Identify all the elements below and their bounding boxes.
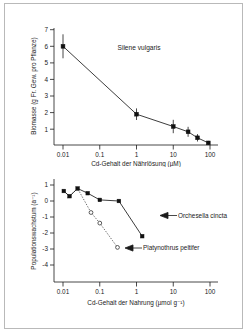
top-x-tick-label: 0.1 xyxy=(95,151,104,158)
orchesella-label: Orchesella cincta xyxy=(178,212,227,219)
bottom-y-tick-label: -1 xyxy=(42,213,48,220)
bottom-y-tick-label: 0 xyxy=(44,197,48,204)
bottom-x-tick-labels: 0.01 0.1 1 10 100 xyxy=(57,288,216,295)
bottom-y-tick-labels: 1 0 -1 -2 -3 -4 xyxy=(42,181,48,268)
top-y-tick-label: 5 xyxy=(44,59,48,66)
top-y-tick-label: 7 xyxy=(44,26,48,33)
top-series-line xyxy=(63,46,208,143)
bottom-x-tick-label: 0.01 xyxy=(57,288,70,295)
top-y-tick-label: 2 xyxy=(44,109,48,116)
bottom-x-ticks xyxy=(63,282,210,287)
top-data-markers xyxy=(61,44,210,144)
figure-frame: 7 6 5 4 3 2 1 0.01 0.1 1 10 100 xyxy=(4,3,243,329)
top-x-tick-label: 1 xyxy=(135,151,139,158)
top-x-tick-label: 0.01 xyxy=(57,151,70,158)
bottom-x-tick-label: 1 xyxy=(135,288,139,295)
platynothrus-data-markers xyxy=(89,211,119,250)
bottom-y-tick-label: 1 xyxy=(44,181,48,188)
orchesella-series-line xyxy=(64,189,142,237)
platynothrus-series-line xyxy=(64,189,118,248)
chart-panel-top: 7 6 5 4 3 2 1 0.01 0.1 1 10 100 xyxy=(5,4,244,167)
top-y-ticks xyxy=(50,30,54,130)
top-y-tick-labels: 7 6 5 4 3 2 1 xyxy=(44,26,48,133)
bottom-x-tick-label: 0.1 xyxy=(95,288,104,295)
bottom-chart-svg: 1 0 -1 -2 -3 -4 0.01 0.1 1 10 100 xyxy=(5,165,244,328)
top-y-tick-label: 1 xyxy=(44,126,48,133)
top-chart-species-annotation: Silene vulgaris xyxy=(118,44,162,52)
bottom-y-tick-label: -3 xyxy=(42,245,48,252)
bottom-y-axis-title: Populationswachstum (a⁻¹) xyxy=(30,192,38,269)
top-y-tick-label: 4 xyxy=(44,76,48,83)
top-y-axis-title: Biomasse (g Fr. Gew. pro Pflanze) xyxy=(30,37,38,134)
orchesella-annotation: Orchesella cincta xyxy=(160,212,227,219)
top-x-tick-labels: 0.01 0.1 1 10 100 xyxy=(57,151,216,158)
platynothrus-annotation: Platynothrus peltifer xyxy=(125,244,200,252)
bottom-x-tick-label: 10 xyxy=(170,288,178,295)
bottom-x-axis-title: Cd-Gehalt der Nahrung (µmol g⁻¹) xyxy=(87,299,184,307)
top-x-ticks xyxy=(63,145,210,150)
bottom-x-tick-label: 100 xyxy=(205,288,216,295)
top-y-tick-label: 3 xyxy=(44,92,48,99)
platynothrus-label: Platynothrus peltifer xyxy=(143,244,200,252)
bottom-y-tick-label: -4 xyxy=(42,261,48,268)
top-y-tick-label: 6 xyxy=(44,43,48,50)
bottom-y-ticks xyxy=(50,185,54,265)
top-x-tick-label: 10 xyxy=(170,151,178,158)
bottom-y-tick-label: -2 xyxy=(42,229,48,236)
orchesella-data-markers xyxy=(62,187,144,238)
top-x-tick-label: 100 xyxy=(205,151,216,158)
top-chart-svg: 7 6 5 4 3 2 1 0.01 0.1 1 10 100 xyxy=(5,4,244,167)
chart-panel-bottom: 1 0 -1 -2 -3 -4 0.01 0.1 1 10 100 xyxy=(5,165,244,328)
